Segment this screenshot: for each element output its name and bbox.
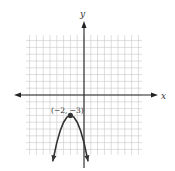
x-axis-left-arrow-icon [14, 93, 21, 98]
y-axis-up-arrow-icon [82, 21, 87, 28]
y-axis-label: y [79, 9, 86, 19]
axes: x y [14, 9, 166, 168]
vertex-label: (−2, −3) [51, 106, 84, 115]
x-axis-right-arrow-icon [151, 93, 158, 98]
parabola-graph: x y (−2, −3) [0, 0, 175, 171]
x-axis-label: x [161, 91, 166, 101]
